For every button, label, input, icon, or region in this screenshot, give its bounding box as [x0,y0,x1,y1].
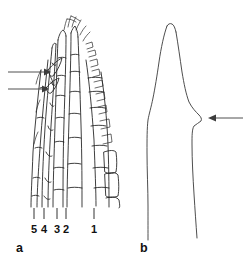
arrow-b [208,114,243,121]
scale-label-2: 2 [63,223,69,235]
ray-4-segments [42,43,56,207]
scale-number-labels: 5 4 3 2 1 [31,223,97,235]
panel-b-drawing [147,24,243,240]
apical-spines [64,16,90,41]
arrow-a-upper [8,69,51,76]
ray-5-segments [31,60,48,207]
ray-2-segments [67,26,82,207]
arrow-a-lower [8,86,49,93]
panel-a-drawing: 5 4 3 2 1 [8,16,120,235]
panel-label-b: b [140,242,148,255]
scale-label-5: 5 [31,223,37,235]
scale-ticks [34,208,94,219]
scale-label-4: 4 [41,223,48,235]
figure-drawing: 5 4 3 2 1 [0,0,252,268]
figure-container: 5 4 3 2 1 a b [0,0,252,268]
panel-label-a: a [16,242,23,255]
scale-label-3: 3 [54,223,60,235]
scale-label-1: 1 [91,223,97,235]
